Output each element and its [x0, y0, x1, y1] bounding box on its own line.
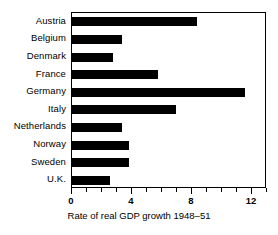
- axis-tick-major: [251, 188, 252, 194]
- bar: [72, 141, 129, 150]
- bar: [72, 35, 122, 44]
- bar: [72, 158, 129, 167]
- axis-tick-label: 12: [246, 195, 257, 206]
- axis-tick-minor: [101, 188, 102, 192]
- category-label: Denmark: [0, 51, 66, 61]
- axis-tick-label: 8: [188, 195, 193, 206]
- category-label: Italy: [0, 104, 66, 114]
- bar: [72, 88, 245, 97]
- axis-tick-major: [191, 188, 192, 194]
- axis-tick-minor: [161, 188, 162, 192]
- bar: [72, 53, 113, 62]
- axis-tick-major: [131, 188, 132, 194]
- axis-tick-minor: [146, 188, 147, 192]
- category-label: Germany: [0, 86, 66, 96]
- axis-tick-minor: [221, 188, 222, 192]
- category-label: Austria: [0, 16, 66, 26]
- bars-layer: [72, 13, 265, 187]
- axis-title: Rate of real GDP growth 1948–51: [0, 210, 278, 222]
- bar: [72, 17, 197, 26]
- axis-tick-minor: [176, 188, 177, 192]
- axis-tick-label: 4: [128, 195, 133, 206]
- plot-area: [71, 12, 266, 188]
- axis-tick-minor: [266, 188, 267, 192]
- bar-chart: AustriaBelgiumDenmarkFranceGermanyItalyN…: [0, 0, 278, 235]
- axis-tick-minor: [206, 188, 207, 192]
- category-label: France: [0, 69, 66, 79]
- axis-tick-major: [71, 188, 72, 194]
- bar: [72, 176, 110, 185]
- axis-tick-minor: [116, 188, 117, 192]
- category-label: Norway: [0, 139, 66, 149]
- bar: [72, 105, 176, 114]
- axis-tick-minor: [236, 188, 237, 192]
- category-label: Belgium: [0, 33, 66, 43]
- category-label: Netherlands: [0, 121, 66, 131]
- bar: [72, 123, 122, 132]
- category-axis: AustriaBelgiumDenmarkFranceGermanyItalyN…: [0, 12, 66, 188]
- axis-tick-minor: [86, 188, 87, 192]
- category-label: U.K.: [0, 174, 66, 184]
- bar: [72, 70, 158, 79]
- value-axis: 04812: [71, 188, 266, 210]
- category-label: Sweden: [0, 157, 66, 167]
- axis-tick-label: 0: [68, 195, 73, 206]
